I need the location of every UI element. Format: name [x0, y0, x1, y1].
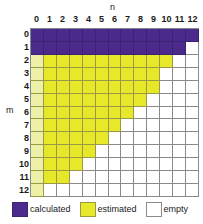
heatmap-cell	[173, 171, 186, 184]
heatmap-cell	[109, 55, 122, 68]
heatmap-cell	[96, 158, 109, 171]
heatmap-cell	[121, 29, 134, 42]
heatmap-cell	[96, 81, 109, 94]
heatmap-cell	[173, 145, 186, 158]
heatmap-cell	[173, 81, 186, 94]
heatmap-cell	[83, 29, 96, 42]
legend-item-estimated: estimated	[80, 202, 137, 217]
heatmap-cell	[160, 81, 173, 94]
heatmap-cell	[96, 171, 109, 184]
heatmap-cell	[57, 158, 70, 171]
heatmap-cell	[147, 132, 160, 145]
heatmap-cell	[44, 119, 57, 132]
heatmap-cell	[186, 81, 199, 94]
heatmap-cell	[83, 94, 96, 107]
y-tick-3: 3	[14, 67, 29, 80]
legend-label-calculated: calculated	[30, 204, 71, 215]
x-axis-tick-labels: 0123456789101112	[30, 13, 199, 26]
heatmap-cell	[109, 68, 122, 81]
y-tick-7: 7	[14, 119, 29, 132]
heatmap-cell	[173, 107, 186, 120]
heatmap-cell	[160, 94, 173, 107]
heatmap-cell	[147, 42, 160, 55]
heatmap-cell	[121, 119, 134, 132]
heatmap-cell	[147, 68, 160, 81]
heatmap-cell	[70, 132, 83, 145]
heatmap-cell	[186, 132, 199, 145]
heatmap-cell	[83, 158, 96, 171]
heatmap-cell	[160, 68, 173, 81]
heatmap-cell	[83, 55, 96, 68]
heatmap-cell	[121, 81, 134, 94]
heatmap-cell	[57, 107, 70, 120]
heatmap-cell	[121, 158, 134, 171]
heatmap-cell	[44, 55, 57, 68]
heatmap-cell	[121, 145, 134, 158]
heatmap-cell	[160, 184, 173, 197]
y-tick-4: 4	[14, 80, 29, 93]
heatmap-cell	[121, 184, 134, 197]
heatmap-cell	[134, 42, 147, 55]
heatmap-cell	[83, 119, 96, 132]
legend-item-calculated: calculated	[12, 202, 71, 217]
heatmap-cell	[147, 184, 160, 197]
x-tick-1: 1	[43, 13, 56, 26]
heatmap-cell	[173, 55, 186, 68]
y-tick-12: 12	[14, 184, 29, 197]
heatmap-cell	[83, 42, 96, 55]
heatmap-cell	[160, 119, 173, 132]
heatmap-cell	[31, 119, 44, 132]
x-tick-10: 10	[160, 13, 173, 26]
heatmap-cell	[186, 107, 199, 120]
legend-swatch-empty	[146, 202, 162, 217]
heatmap-cell	[96, 29, 109, 42]
heatmap-cell	[96, 145, 109, 158]
heatmap-cell	[70, 55, 83, 68]
heatmap-cell	[70, 158, 83, 171]
heatmap-cell	[160, 132, 173, 145]
heatmap-cell	[96, 68, 109, 81]
heatmap-cell	[121, 171, 134, 184]
heatmap-cell	[109, 107, 122, 120]
y-tick-5: 5	[14, 93, 29, 106]
heatmap-cell	[83, 81, 96, 94]
heatmap-cell	[57, 42, 70, 55]
heatmap-cell	[70, 184, 83, 197]
heatmap-cell	[173, 158, 186, 171]
x-tick-4: 4	[82, 13, 95, 26]
heatmap-cell	[57, 55, 70, 68]
heatmap-cell	[147, 107, 160, 120]
heatmap-cell	[109, 132, 122, 145]
heatmap-cell	[44, 42, 57, 55]
heatmap-cell	[31, 29, 44, 42]
heatmap-cell	[57, 29, 70, 42]
heatmap-cell	[83, 184, 96, 197]
heatmap-cell	[70, 119, 83, 132]
y-tick-8: 8	[14, 132, 29, 145]
heatmap-cell	[160, 55, 173, 68]
heatmap-cell	[57, 81, 70, 94]
heatmap-cell	[121, 42, 134, 55]
x-tick-0: 0	[30, 13, 43, 26]
heatmap-cell	[121, 107, 134, 120]
heatmap-cell	[70, 171, 83, 184]
heatmap-cell	[96, 42, 109, 55]
heatmap-cell	[96, 94, 109, 107]
x-tick-3: 3	[69, 13, 82, 26]
heatmap-cell	[31, 55, 44, 68]
heatmap-cell	[96, 184, 109, 197]
legend-label-estimated: estimated	[98, 204, 137, 215]
heatmap-cell	[186, 94, 199, 107]
heatmap-cell	[83, 171, 96, 184]
heatmap-cell	[31, 68, 44, 81]
heatmap-cell	[70, 29, 83, 42]
heatmap-cell	[147, 145, 160, 158]
heatmap-cell	[31, 42, 44, 55]
heatmap-cell	[134, 81, 147, 94]
heatmap-cell	[83, 145, 96, 158]
heatmap-cell	[44, 171, 57, 184]
legend-swatch-calculated	[12, 202, 28, 217]
heatmap-cell	[44, 158, 57, 171]
heatmap-cell	[70, 94, 83, 107]
x-tick-12: 12	[186, 13, 199, 26]
